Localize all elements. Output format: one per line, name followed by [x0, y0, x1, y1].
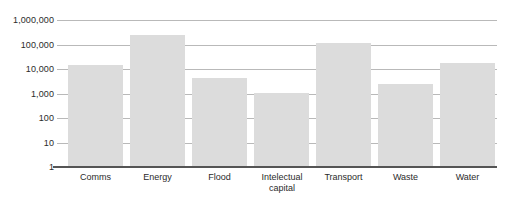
x-axis-label-water-line1: Water: [440, 172, 495, 183]
x-axis-label-energy: Energy: [130, 172, 185, 183]
x-axis-label-transport-line1: Transport: [314, 172, 373, 183]
x-axis-label-intelectual-capital: Intelectual capital: [250, 172, 314, 194]
bar-chart: 1,000,000 100,000 10,000 1,000 100 10 1: [0, 0, 511, 206]
x-axis-label-flood: Flood: [192, 172, 247, 183]
x-axis-label-comms-line1: Comms: [68, 172, 123, 183]
bar-waste: [378, 84, 433, 167]
x-axis-line: [53, 166, 497, 168]
x-axis-label-waste-line1: Waste: [378, 172, 433, 183]
x-axis-label-comms: Comms: [68, 172, 123, 183]
bar-energy: [130, 35, 185, 167]
x-axis-label-transport: Transport: [314, 172, 373, 183]
x-axis-label-flood-line1: Flood: [192, 172, 247, 183]
x-axis-label-intelectual-capital-line1: Intelectual: [250, 172, 314, 183]
bar-intelectual-capital: [254, 93, 309, 168]
x-axis-label-intelectual-capital-line2: capital: [250, 183, 314, 194]
bar-water: [440, 63, 495, 167]
bar-comms: [68, 65, 123, 167]
x-axis-labels: Comms Energy Flood Intelectual capital T…: [0, 172, 511, 202]
bar-flood: [192, 78, 247, 168]
bar-transport: [316, 43, 371, 167]
x-axis-label-waste: Waste: [378, 172, 433, 183]
x-axis-label-energy-line1: Energy: [130, 172, 185, 183]
x-axis-label-water: Water: [440, 172, 495, 183]
